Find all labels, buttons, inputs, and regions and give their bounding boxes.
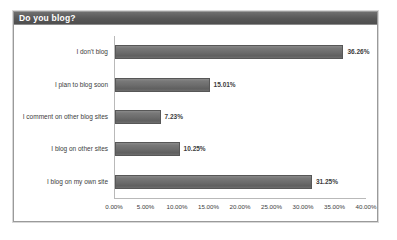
value-label: 36.26% xyxy=(347,48,369,56)
bar-row: I blog on my own site 31.25% xyxy=(114,166,366,198)
value-axis-line xyxy=(114,198,366,199)
bar[interactable] xyxy=(115,142,180,156)
x-tick-label: 10.00% xyxy=(167,202,188,211)
category-label: I plan to blog soon xyxy=(55,81,108,89)
chart-panel: Do you blog? I don't blog 36.26% I plan … xyxy=(13,11,378,222)
value-label: 10.25% xyxy=(184,145,206,153)
x-tick-label: 5.00% xyxy=(137,202,155,211)
bar[interactable] xyxy=(115,78,210,92)
bar-row: I comment on other blog sites 7.23% xyxy=(114,101,366,133)
x-tick-label: 20.00% xyxy=(230,202,251,211)
plot-area: I don't blog 36.26% I plan to blog soon … xyxy=(114,36,366,198)
bar[interactable] xyxy=(115,110,161,124)
chart-title-bar: Do you blog? xyxy=(14,12,377,25)
x-tick-label: 35.00% xyxy=(324,202,345,211)
bar-row: I plan to blog soon 15.01% xyxy=(114,68,366,100)
category-label: I comment on other blog sites xyxy=(23,113,108,121)
x-tick-label: 0.00% xyxy=(105,202,123,211)
chart-body: I don't blog 36.26% I plan to blog soon … xyxy=(14,26,377,221)
chart-title: Do you blog? xyxy=(19,13,76,24)
x-tick-label: 40.00% xyxy=(356,202,377,211)
bar[interactable] xyxy=(115,45,343,59)
category-label: I blog on other sites xyxy=(51,145,108,153)
x-axis-tick-labels: 0.00% 5.00% 10.00% 15.00% 20.00% 25.00% … xyxy=(114,202,366,214)
x-tick-label: 15.00% xyxy=(198,202,219,211)
category-label: I blog on my own site xyxy=(47,178,108,186)
value-label: 7.23% xyxy=(165,113,183,121)
category-label: I don't blog xyxy=(76,48,108,56)
bar-row: I blog on other sites 10.25% xyxy=(114,133,366,165)
bar-row: I don't blog 36.26% xyxy=(114,36,366,68)
bar[interactable] xyxy=(115,175,312,189)
x-tick-label: 30.00% xyxy=(293,202,314,211)
x-tick-label: 25.00% xyxy=(261,202,282,211)
value-label: 31.25% xyxy=(316,178,338,186)
value-label: 15.01% xyxy=(214,81,236,89)
